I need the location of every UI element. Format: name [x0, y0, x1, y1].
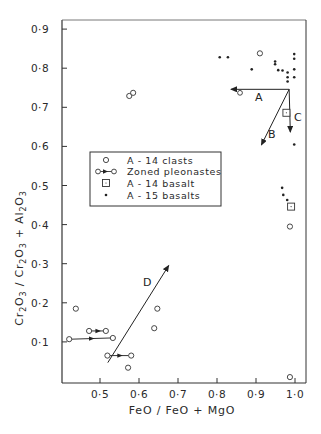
- x-axis-title: FeO / FeO + MgO: [129, 404, 235, 417]
- x-tick-label: 0·9: [247, 388, 265, 400]
- svg-text:Zoned pleonastes: Zoned pleonastes: [127, 166, 221, 177]
- vector-a-end-circle: [238, 90, 243, 95]
- y-tick-label: 0·3: [31, 258, 49, 270]
- y-tick-label: 0·7: [31, 101, 49, 113]
- point-a15-basalt: [286, 76, 289, 79]
- point-a15-basalt: [218, 56, 221, 59]
- y-tick-label: 0·4: [31, 219, 49, 231]
- point-a14-clast: [73, 306, 78, 311]
- y-axis-title: Cr2O3 / Cr2O3 + Al2O3: [13, 190, 28, 325]
- point-a15-basalt: [250, 68, 253, 71]
- svg-text:A - 15 basalts: A - 15 basalts: [127, 190, 200, 201]
- point-a14-basalt: [283, 109, 290, 116]
- x-tick-label: 0·6: [130, 388, 148, 400]
- point-a14-clast: [155, 306, 160, 311]
- y-tick-label: 0·5: [31, 180, 49, 192]
- point-a15-basalt: [286, 199, 289, 202]
- point-a15-basalt: [293, 53, 296, 56]
- x-tick-label: 0·8: [208, 388, 226, 400]
- point-a15-basalt: [277, 69, 280, 72]
- zoned-pleonaste-pair: [105, 353, 134, 358]
- zoned-pleonaste-pair: [86, 328, 108, 333]
- point-a15-basalt: [282, 194, 285, 197]
- svg-text:A - 14 basalt: A - 14 basalt: [127, 178, 195, 189]
- scatter-chart: 0·10·20·30·40·50·60·70·80·9 0·50·60·70·8…: [0, 0, 321, 434]
- vector-d: [108, 266, 169, 363]
- dot-icon: [105, 194, 108, 197]
- point-a15-basalt: [293, 58, 296, 61]
- legend: A - 14 clasts Zoned pleonastes A - 14 ba…: [90, 152, 221, 206]
- svg-text:Cr2O3 / Cr2O3 + Al2O3: Cr2O3 / Cr2O3 + Al2O3: [13, 190, 28, 325]
- point-a15-basalt: [274, 63, 277, 66]
- vector-label-a: A: [255, 91, 263, 104]
- point-a15-basalt: [293, 143, 296, 146]
- y-tick-label: 0·8: [31, 62, 49, 74]
- point-a15-basalt: [274, 60, 277, 63]
- point-a15-basalt: [286, 71, 289, 74]
- x-tick-label: 1·0: [286, 388, 304, 400]
- point-a14-clast: [125, 365, 130, 370]
- point-a15-basalt: [281, 187, 284, 190]
- vector-label-c: C: [294, 111, 302, 124]
- y-tick-label: 0·6: [31, 140, 49, 152]
- vector-annotations: [108, 89, 291, 362]
- point-a15-basalt: [227, 56, 230, 59]
- x-tick-label: 0·7: [169, 388, 187, 400]
- zoned-pleonaste-pair: [67, 335, 116, 341]
- y-tick-label: 0·1: [31, 336, 49, 348]
- vector-label-d: D: [143, 276, 151, 289]
- y-tick-label: 0·2: [31, 297, 49, 309]
- x-tick-label: 0·5: [91, 388, 109, 400]
- y-tick-label: 0·9: [31, 23, 49, 35]
- vector-label-b: B: [268, 128, 276, 141]
- zoned-pleonastes-series: [67, 328, 134, 358]
- point-a15-basalt: [293, 76, 296, 79]
- x-axis-ticks: 0·50·60·70·80·91·0: [91, 378, 304, 400]
- svg-text:A - 14 clasts: A - 14 clasts: [127, 155, 193, 166]
- point-a15-basalt: [293, 68, 296, 71]
- point-a15-basalt: [281, 69, 284, 72]
- point-a14-basalt: [288, 203, 295, 210]
- point-a15-basalt: [286, 80, 289, 83]
- point-a14-clast: [287, 374, 292, 379]
- point-a14-clast: [287, 224, 292, 229]
- point-a14-clast: [131, 90, 136, 95]
- point-a14-clast: [257, 51, 262, 56]
- point-a14-clast: [152, 326, 157, 331]
